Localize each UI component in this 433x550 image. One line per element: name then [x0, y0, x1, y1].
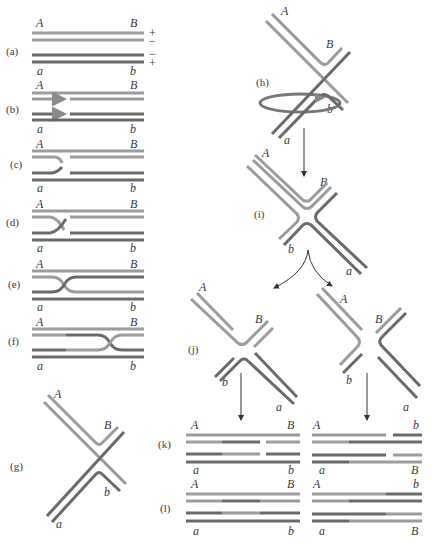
panel-b-label: (b) [6, 103, 19, 116]
label-b: b [346, 373, 352, 387]
label-a: a [319, 463, 325, 477]
panel-e: (e) A B a b [8, 257, 144, 314]
panel-l: (l) A B a b A b a B [160, 477, 422, 538]
label-A: A [190, 477, 199, 491]
panel-d-label: (d) [6, 216, 19, 229]
panel-h-label: (h) [256, 76, 269, 89]
label-A: A [280, 4, 289, 18]
label-B: B [104, 418, 112, 432]
label-a: a [37, 64, 43, 78]
sign-minus: − [149, 34, 156, 48]
label-a: a [403, 400, 409, 414]
label-B: B [255, 312, 263, 326]
panel-f-label: (f) [8, 335, 19, 348]
label-a: a [37, 122, 43, 136]
label-B: B [130, 315, 138, 329]
label-b: b [130, 241, 136, 255]
label-B: B [411, 524, 419, 538]
panel-c-label: (c) [10, 158, 23, 171]
label-a: a [37, 241, 43, 255]
label-B: B [130, 197, 138, 211]
label-A: A [339, 292, 348, 306]
label-A: A [53, 387, 62, 401]
panel-a-label: (a) [6, 45, 19, 58]
label-b: b [288, 524, 294, 538]
label-A: A [35, 315, 44, 329]
label-A: A [190, 418, 199, 432]
panel-j-right: A B b a [317, 288, 420, 414]
label-B: B [130, 137, 138, 151]
label-A: A [35, 257, 44, 271]
panel-j-label: (j) [188, 343, 199, 356]
sign-plus: + [149, 56, 156, 70]
panel-k-label: (k) [158, 438, 171, 451]
label-a: a [193, 524, 199, 538]
label-B: B [326, 37, 334, 51]
label-A: A [312, 477, 321, 491]
label-b: b [104, 485, 110, 499]
label-b: b [288, 463, 294, 477]
panel-i: (i) A B b a [247, 146, 367, 278]
panel-k: (k) A B a b A b a B [158, 418, 422, 477]
label-B: B [411, 463, 419, 477]
label-a: a [276, 400, 282, 414]
label-b: b [130, 181, 136, 195]
label-B: B [375, 312, 383, 326]
label-B: B [130, 257, 138, 271]
label-a: a [284, 133, 290, 147]
label-b: b [288, 242, 294, 256]
label-a: a [37, 359, 43, 373]
label-b: b [413, 418, 419, 432]
label-A: A [198, 280, 207, 294]
label-b: b [130, 359, 136, 373]
label-b: b [130, 122, 136, 136]
panel-c: (c) A B a b [10, 137, 144, 195]
label-a: a [37, 300, 43, 314]
label-a: a [319, 524, 325, 538]
arrow-branch-right [308, 250, 332, 286]
label-b: b [130, 64, 136, 78]
panel-d: (d) A B a b [6, 197, 144, 255]
panel-g-label: (g) [10, 460, 23, 473]
label-A: A [35, 197, 44, 211]
panel-g: (g) A B b a [10, 387, 126, 531]
label-B: B [130, 78, 138, 92]
label-A: A [35, 16, 44, 30]
label-B: B [130, 16, 138, 30]
label-A: A [261, 146, 270, 160]
panel-b: (b) A B a b [6, 78, 144, 136]
label-b: b [413, 477, 419, 491]
panel-a: (a) A B + − − + a b [6, 16, 156, 78]
holliday-diagram: (a) A B + − − + a b (b) A B a b (c) A B [0, 0, 433, 550]
panel-e-label: (e) [8, 278, 21, 291]
panel-j-left: (j) A B b a [188, 280, 297, 414]
panel-f: (f) A B a b [8, 315, 144, 373]
label-A: A [35, 137, 44, 151]
label-a: a [56, 517, 62, 531]
label-B: B [287, 477, 295, 491]
label-A: A [312, 418, 321, 432]
label-b: b [130, 300, 136, 314]
label-a: a [193, 463, 199, 477]
panel-i-label: (i) [254, 208, 265, 221]
panel-l-label: (l) [160, 502, 171, 515]
label-B: B [287, 418, 295, 432]
label-a: a [37, 181, 43, 195]
panel-h: (h) A B b a [256, 4, 350, 147]
label-A: A [35, 78, 44, 92]
